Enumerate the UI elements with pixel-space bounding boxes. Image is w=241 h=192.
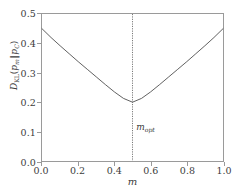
ylabel-close-paren: ) xyxy=(9,41,19,45)
x-tick-mark xyxy=(187,162,188,166)
ylabel-open-paren: ( xyxy=(9,71,19,75)
ylabel-p2-subscript: C xyxy=(13,44,20,49)
x-tick-label: 0.0 xyxy=(33,165,48,176)
ylabel-p2: p xyxy=(9,49,19,55)
dkl-curve xyxy=(42,29,223,103)
x-tick-mark xyxy=(114,162,115,166)
figure: 0.0 0.1 0.2 0.3 0.4 0.5 0.0 0.2 0.4 0.6 … xyxy=(0,0,241,192)
x-tick-label: 0.4 xyxy=(107,165,122,176)
x-axis-label: m xyxy=(41,176,224,187)
m-opt-base: m xyxy=(136,122,145,132)
x-tick-label: 0.2 xyxy=(70,165,85,176)
m-opt-subscript: opt xyxy=(145,125,155,132)
x-tick-label: 0.6 xyxy=(143,165,158,176)
ylabel-double-bar: ‖ xyxy=(9,55,19,60)
x-tick-mark xyxy=(41,162,42,166)
ylabel-D-subscript: KL xyxy=(13,74,20,83)
x-tick-label: 0.8 xyxy=(180,165,195,176)
chart-canvas xyxy=(42,14,223,161)
x-tick-mark xyxy=(224,162,225,166)
y-axis-label: DKL(pm‖pC) xyxy=(9,0,20,138)
x-tick-mark xyxy=(151,162,152,166)
x-tick-mark xyxy=(78,162,79,166)
ylabel-p1: p xyxy=(9,65,19,71)
plot-area xyxy=(41,13,224,162)
m-opt-annotation: mopt xyxy=(136,122,155,133)
ylabel-p1-subscript: m xyxy=(13,59,20,65)
ylabel-D: D xyxy=(9,83,19,90)
x-tick-label: 1.0 xyxy=(216,165,231,176)
y-axis-label-holder: DKL(pm‖pC) xyxy=(0,0,22,192)
